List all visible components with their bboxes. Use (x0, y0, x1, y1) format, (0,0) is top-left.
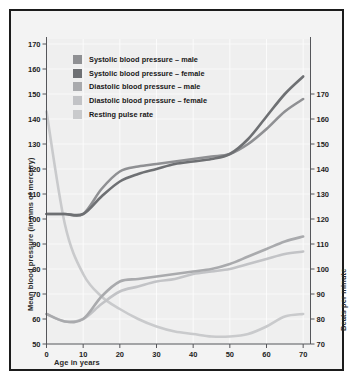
x-axis-tick-label: 50 (219, 350, 241, 359)
legend-label: Diastolic blood pressure – male (89, 82, 200, 91)
y-axis-right-tick-label: 100 (317, 265, 341, 274)
legend-swatch-icon (73, 69, 82, 78)
x-axis-tick-label: 60 (256, 350, 278, 359)
y-axis-right-tick-label: 120 (317, 215, 341, 224)
y-axis-left-title: Mean blood pressure (in mms of mercury) (26, 157, 35, 311)
x-axis-tick-label: 30 (146, 350, 168, 359)
y-axis-right-tick-label: 80 (317, 315, 341, 324)
chart-frame: Mean blood pressure (in mms of mercury) … (9, 9, 344, 371)
y-axis-left-tick-label: 100 (19, 215, 41, 224)
y-axis-right-tick-label: 150 (317, 140, 341, 149)
y-axis-left-tick-label: 140 (19, 115, 41, 124)
chart-plot-area: Mean blood pressure (in mms of mercury) … (11, 11, 342, 369)
legend-label: Resting pulse rate (89, 110, 153, 119)
y-axis-left-tick-label: 130 (19, 140, 41, 149)
legend-swatch-icon (73, 55, 82, 64)
y-axis-left-tick-label: 90 (19, 240, 41, 249)
y-axis-left-tick-label: 80 (19, 265, 41, 274)
y-axis-left-tick-label: 70 (19, 290, 41, 299)
x-axis-tick-label: 70 (292, 350, 314, 359)
y-axis-left-tick-label: 170 (19, 40, 41, 49)
chart-legend: Systolic blood pressure – maleSystolic b… (73, 53, 207, 121)
y-axis-left-tick-label: 150 (19, 90, 41, 99)
y-axis-left-tick-label: 120 (19, 165, 41, 174)
y-axis-left-tick-label: 110 (19, 190, 41, 199)
legend-item: Resting pulse rate (73, 107, 207, 121)
legend-label: Systolic blood pressure – female (89, 69, 205, 78)
legend-swatch-icon (73, 82, 82, 91)
y-axis-right-tick-label: 140 (317, 165, 341, 174)
legend-label: Diastolic blood pressure – female (89, 96, 207, 105)
legend-item: Systolic blood pressure – female (73, 67, 207, 81)
x-axis-tick-label: 0 (36, 350, 58, 359)
y-axis-right-tick-label: 170 (317, 90, 341, 99)
legend-item: Systolic blood pressure – male (73, 53, 207, 67)
legend-item: Diastolic blood pressure – male (73, 80, 207, 94)
x-axis-tick-label: 10 (72, 350, 94, 359)
y-axis-left-tick-label: 60 (19, 315, 41, 324)
legend-swatch-icon (73, 96, 82, 105)
x-axis-tick-label: 20 (109, 350, 131, 359)
y-axis-right-tick-label: 130 (317, 190, 341, 199)
x-axis-title: Age in years (54, 358, 100, 367)
y-axis-right-tick-label: 90 (317, 290, 341, 299)
legend-label: Systolic blood pressure – male (89, 55, 198, 64)
y-axis-left-tick-label: 50 (19, 340, 41, 349)
y-axis-right-tick-label: 160 (317, 115, 341, 124)
legend-swatch-icon (73, 110, 82, 119)
x-axis-tick-label: 40 (182, 350, 204, 359)
legend-item: Diastolic blood pressure – female (73, 94, 207, 108)
y-axis-left-tick-label: 160 (19, 65, 41, 74)
y-axis-right-tick-label: 110 (317, 240, 341, 249)
y-axis-right-tick-label: 70 (317, 340, 341, 349)
